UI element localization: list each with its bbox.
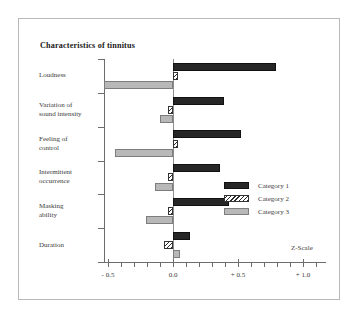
- bar-c2: [173, 72, 178, 80]
- x-axis-tick-minor: [316, 262, 317, 267]
- x-axis-tick-minor: [121, 262, 122, 267]
- bar-c2: [168, 173, 173, 181]
- bar-c2: [168, 106, 173, 114]
- x-axis-tick-minor: [186, 262, 187, 267]
- legend-item-category-2: Category 2: [224, 192, 329, 205]
- x-axis-tick-minor: [277, 262, 278, 267]
- category-label: Maskingability: [39, 202, 101, 220]
- bar-c2: [164, 241, 173, 249]
- bar-c1: [173, 198, 229, 206]
- x-axis-tick-major: [303, 259, 304, 267]
- x-axis-tick-minor: [225, 262, 226, 267]
- category-label-line: control: [39, 144, 101, 153]
- category-label-line: Variation of: [39, 101, 101, 110]
- y-axis-tick: [98, 228, 105, 229]
- legend-swatch-category-2: [224, 195, 249, 202]
- bar-c1: [173, 232, 190, 240]
- y-axis-tick: [98, 93, 105, 94]
- category-label: Variation ofsound intensity: [39, 101, 101, 119]
- bar-c3: [155, 183, 173, 191]
- bar-c3: [146, 216, 173, 224]
- y-axis-tick: [98, 262, 105, 263]
- category-label: Loudness: [39, 71, 101, 80]
- legend: Category 1 Category 2 Category 3: [224, 179, 329, 218]
- x-axis-tick-major: [173, 259, 174, 267]
- category-label-line: ability: [39, 211, 101, 220]
- category-label-line: Duration: [39, 241, 101, 250]
- x-axis-tick-minor: [199, 262, 200, 267]
- category-label: Feeling ofcontrol: [39, 135, 101, 153]
- category-label-line: sound intensity: [39, 110, 101, 119]
- category-label-line: Feeling of: [39, 135, 101, 144]
- y-axis-tick: [98, 59, 105, 60]
- bar-c2: [168, 207, 173, 215]
- x-axis-tick-label: + 1.0: [296, 271, 310, 279]
- y-axis-tick: [98, 127, 105, 128]
- figure-frame: Characteristics of tinnitus - 0.50.0+ 0.…: [18, 18, 340, 300]
- legend-label-category-3: Category 3: [258, 208, 289, 216]
- x-axis-tick-label: 0.0: [169, 271, 178, 279]
- legend-swatch-category-1: [224, 182, 249, 189]
- bar-c1: [173, 130, 241, 138]
- bar-c3: [104, 81, 173, 89]
- plot-area: - 0.50.0+ 0.5+ 1.0LoudnessVariation ofso…: [19, 19, 341, 301]
- legend-item-category-3: Category 3: [224, 205, 329, 218]
- legend-label-category-1: Category 1: [258, 182, 289, 190]
- x-axis-tick-label: + 0.5: [231, 271, 245, 279]
- bar-c1: [173, 164, 220, 172]
- category-label: Duration: [39, 241, 101, 250]
- category-label-line: Loudness: [39, 71, 101, 80]
- category-label-line: occurrence: [39, 177, 101, 186]
- x-axis-tick-minor: [251, 262, 252, 267]
- x-axis-title: Z-Scale: [291, 244, 313, 252]
- bar-c3: [173, 250, 180, 258]
- x-axis-tick-label: - 0.5: [102, 271, 115, 279]
- y-axis-tick: [98, 161, 105, 162]
- x-axis-tick-minor: [264, 262, 265, 267]
- x-axis-tick-minor: [134, 262, 135, 267]
- bar-c3: [160, 115, 173, 123]
- bar-c1: [173, 63, 276, 71]
- legend-label-category-2: Category 2: [258, 195, 289, 203]
- bar-c3: [115, 149, 174, 157]
- x-axis-tick-major: [238, 259, 239, 267]
- x-axis-tick-minor: [212, 262, 213, 267]
- legend-swatch-category-3: [224, 208, 249, 215]
- legend-item-category-1: Category 1: [224, 179, 329, 192]
- bar-c2: [173, 140, 178, 148]
- x-axis-tick-minor: [160, 262, 161, 267]
- y-axis-tick: [98, 194, 105, 195]
- category-label-line: Masking: [39, 202, 101, 211]
- x-axis-tick-minor: [147, 262, 148, 267]
- bar-c1: [173, 97, 224, 105]
- category-label: Intermittentoccurrence: [39, 168, 101, 186]
- category-label-line: Intermittent: [39, 168, 101, 177]
- x-axis-tick-minor: [290, 262, 291, 267]
- x-axis-tick-major: [108, 259, 109, 267]
- x-axis-line: [104, 262, 326, 263]
